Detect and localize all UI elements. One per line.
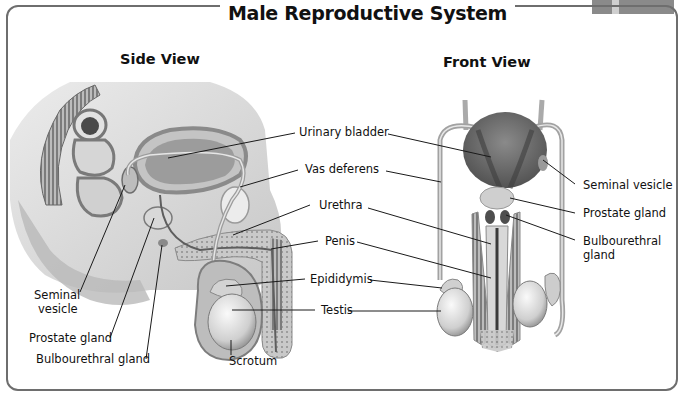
front-view-art — [437, 100, 563, 352]
side-view-art — [10, 82, 292, 360]
label-bulbourethral-front-line1: Bulbourethral — [583, 234, 661, 249]
label-seminal-vesicle-line2: vesicle — [38, 302, 78, 317]
label-penis: Penis — [325, 234, 355, 249]
label-prostate-gland-side: Prostate gland — [29, 331, 112, 346]
side-view-title: Side View — [120, 51, 200, 67]
label-bulbourethral-front-line2: gland — [583, 248, 615, 263]
label-seminal-vesicle-front: Seminal vesicle — [583, 178, 673, 193]
label-prostate-gland-front: Prostate gland — [583, 206, 666, 221]
label-scrotum: Scrotum — [229, 354, 277, 369]
label-seminal-vesicle-line1: Seminal — [34, 288, 80, 303]
front-view-title: Front View — [443, 54, 531, 70]
label-urinary-bladder: Urinary bladder — [299, 125, 389, 140]
label-urethra: Urethra — [319, 198, 363, 213]
diagram-stage: Male Reproductive System — [0, 0, 682, 400]
label-epididymis: Epididymis — [310, 272, 373, 287]
label-bulbourethral-gland-side: Bulbourethral gland — [36, 352, 150, 367]
label-testis: Testis — [321, 303, 353, 318]
label-vas-deferens: Vas deferens — [305, 162, 379, 177]
